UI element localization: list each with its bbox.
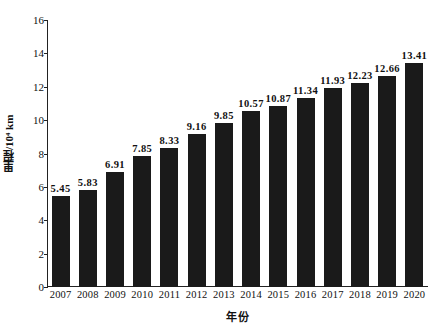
bar[interactable]: 11.34 bbox=[297, 20, 315, 287]
bar[interactable]: 5.45 bbox=[52, 20, 70, 287]
bar[interactable]: 9.16 bbox=[188, 20, 206, 287]
bar-value-label: 11.34 bbox=[293, 85, 318, 96]
bar-rect bbox=[106, 172, 124, 287]
y-tick-label: 10 bbox=[33, 114, 44, 126]
x-tick-label: 2007 bbox=[50, 289, 72, 300]
bars-layer: 5.455.836.917.858.339.169.8510.5710.8711… bbox=[47, 20, 428, 287]
bar-rect bbox=[297, 98, 315, 287]
bar-rect bbox=[215, 123, 233, 287]
bar[interactable]: 8.33 bbox=[160, 20, 178, 287]
bar-value-label: 6.91 bbox=[105, 159, 125, 170]
bar-value-label: 12.23 bbox=[347, 70, 373, 81]
x-tick-label: 2012 bbox=[186, 289, 208, 300]
y-tick-label: 14 bbox=[33, 47, 44, 59]
bar-value-label: 8.33 bbox=[159, 135, 179, 146]
y-tick-label: 12 bbox=[33, 81, 44, 93]
x-tick-label: 2016 bbox=[295, 289, 317, 300]
x-tick-label: 2009 bbox=[104, 289, 126, 300]
bar-rect bbox=[188, 134, 206, 287]
bar-value-label: 13.41 bbox=[402, 50, 428, 61]
bar[interactable]: 7.85 bbox=[133, 20, 151, 287]
bar[interactable]: 12.23 bbox=[351, 20, 369, 287]
bar[interactable]: 9.85 bbox=[215, 20, 233, 287]
bar-rect bbox=[160, 148, 178, 287]
y-tick-label: 16 bbox=[33, 14, 44, 26]
x-tick-label: 2014 bbox=[240, 289, 262, 300]
x-tick-label: 2008 bbox=[77, 289, 99, 300]
x-tick-label: 2019 bbox=[376, 289, 398, 300]
bar-rect bbox=[133, 156, 151, 287]
x-tick-label: 2017 bbox=[322, 289, 344, 300]
bar-value-label: 7.85 bbox=[132, 143, 152, 154]
bar[interactable]: 5.83 bbox=[79, 20, 97, 287]
bar-value-label: 12.66 bbox=[374, 63, 400, 74]
y-tick-mark bbox=[44, 287, 48, 288]
bar-rect bbox=[242, 111, 260, 287]
x-tick-label: 2015 bbox=[267, 289, 289, 300]
bar-value-label: 5.45 bbox=[51, 183, 71, 194]
bar[interactable]: 10.57 bbox=[242, 20, 260, 287]
x-tick-label: 2020 bbox=[403, 289, 425, 300]
bar-value-label: 9.85 bbox=[214, 110, 234, 121]
bar-chart: 里程/10⁴ km 0246810121416 5.455.836.917.85… bbox=[0, 0, 439, 334]
bar-rect bbox=[52, 196, 70, 287]
bar-rect bbox=[269, 106, 287, 287]
bar-value-label: 10.87 bbox=[266, 93, 292, 104]
bar[interactable]: 6.91 bbox=[106, 20, 124, 287]
bar-rect bbox=[351, 83, 369, 287]
x-tick-label: 2011 bbox=[159, 289, 180, 300]
bar[interactable]: 11.93 bbox=[324, 20, 342, 287]
x-axis-title: 年份 bbox=[47, 308, 428, 324]
bar-value-label: 9.16 bbox=[187, 121, 207, 132]
x-tick-label: 2010 bbox=[131, 289, 153, 300]
bar-rect bbox=[79, 190, 97, 287]
x-axis-tick-labels: 2007200820092010201120122013201420152016… bbox=[47, 289, 428, 307]
bar[interactable]: 10.87 bbox=[269, 20, 287, 287]
bar-rect bbox=[324, 88, 342, 287]
bar-value-label: 5.83 bbox=[78, 177, 98, 188]
bar-value-label: 11.93 bbox=[320, 75, 345, 86]
bar-value-label: 10.57 bbox=[238, 98, 264, 109]
x-tick-label: 2013 bbox=[213, 289, 235, 300]
x-tick-label: 2018 bbox=[349, 289, 371, 300]
bar[interactable]: 13.41 bbox=[405, 20, 423, 287]
bar[interactable]: 12.66 bbox=[378, 20, 396, 287]
bar-rect bbox=[405, 63, 423, 287]
y-axis-tick-labels: 0246810121416 bbox=[18, 0, 44, 334]
y-axis-title: 里程/10⁴ km bbox=[0, 0, 18, 287]
bar-rect bbox=[378, 76, 396, 287]
